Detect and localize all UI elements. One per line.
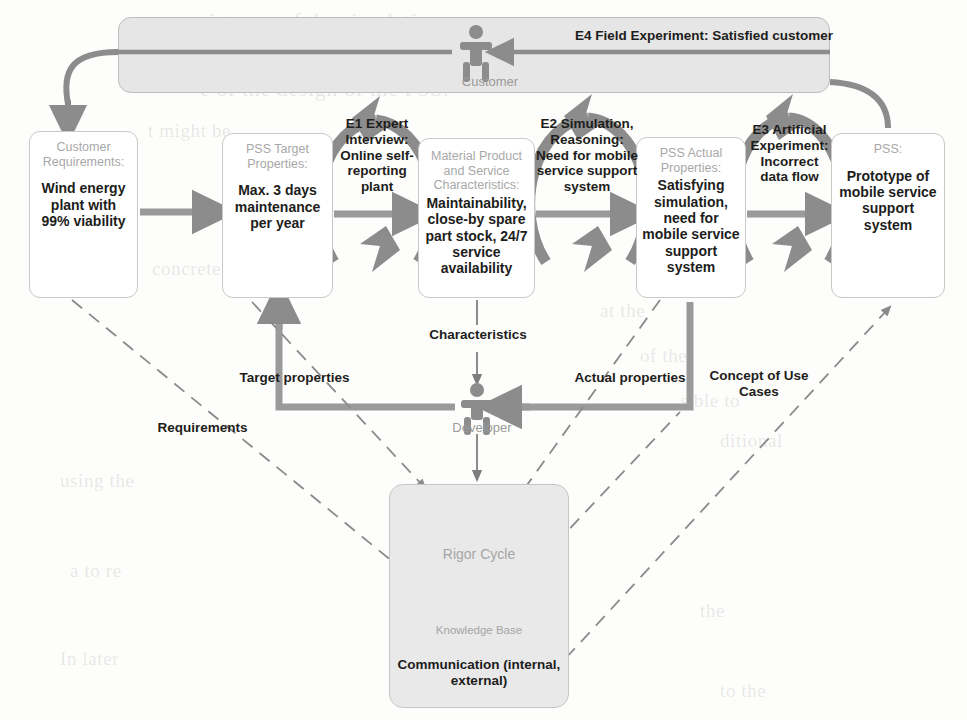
node-pss[interactable]: PSS: Prototype of mobile service support…	[831, 133, 945, 298]
label-e2: E2 Simulation, Reasoning: Need for mobil…	[536, 116, 638, 195]
node-pss-actual-properties[interactable]: PSS Actual Properties: Satisfying simula…	[636, 137, 746, 298]
rigor-cycle-label: Rigor Cycle	[389, 546, 569, 562]
label-actual-properties: Actual properties	[560, 370, 700, 386]
arrow-lane-to-customer-requirements	[66, 52, 118, 124]
node-body: Wind energy plant with 99% viability	[35, 180, 132, 229]
background-text: using the	[60, 470, 135, 492]
developer-actor-label: Developer	[417, 420, 547, 435]
knowledge-base-label: Knowledge Base	[399, 624, 559, 637]
node-title: PSS Actual Properties:	[642, 146, 740, 175]
label-requirements: Requirements	[125, 420, 280, 436]
diagram-canvas: sistency of the simulation w uld be impa…	[0, 0, 967, 720]
label-concept-of-use-cases: Concept of Use Cases	[703, 368, 815, 400]
node-body: Max. 3 days maintenance per year	[228, 182, 327, 231]
node-material-product-and-service-characteristics[interactable]: Material Product and Service Characteris…	[418, 138, 535, 298]
node-customer-requirements[interactable]: Customer Requirements: Wind energy plant…	[29, 131, 138, 298]
background-text: to the	[720, 680, 766, 702]
dashed-target-properties-line	[252, 302, 424, 487]
background-text: concrete	[152, 258, 221, 280]
node-title: Customer Requirements:	[35, 140, 132, 169]
background-text: ditional	[720, 430, 783, 452]
node-title: PSS Target Properties:	[228, 142, 327, 171]
background-text: of the	[640, 345, 687, 367]
dashed-concept-of-use-cases-line	[566, 308, 889, 658]
node-title: PSS:	[837, 142, 939, 157]
label-characteristics: Characteristics	[413, 327, 543, 343]
node-title: Material Product and Service Characteris…	[424, 149, 529, 193]
label-target-properties: Target properties	[222, 370, 367, 386]
background-text: a to re	[70, 560, 122, 582]
node-pss-target-properties[interactable]: PSS Target Properties: Max. 3 days maint…	[222, 133, 333, 298]
background-text: at the	[600, 300, 645, 322]
arrow-actual-properties	[500, 302, 690, 407]
e4-field-experiment-label: E4 Field Experiment: Satisfied customer	[575, 28, 833, 43]
background-text: In later	[60, 648, 119, 670]
label-e1: E1 Expert Interview: Online self-reporti…	[336, 116, 418, 195]
customer-actor-label: Customer	[435, 74, 545, 89]
node-body: Prototype of mobile service support syst…	[837, 168, 939, 234]
arrow-pss-to-lane	[830, 82, 888, 128]
background-text: t might be	[148, 120, 231, 142]
communication-label: Communication (internal, external)	[384, 657, 574, 689]
arrow-target-properties	[279, 302, 455, 407]
node-body: Maintainability, close-by spare part sto…	[424, 195, 529, 277]
background-text: the	[700, 600, 725, 622]
node-body: Satisfying simulation, need for mobile s…	[642, 177, 740, 275]
label-e3: E3 Artificial Experiment: Incorrect data…	[747, 122, 832, 185]
